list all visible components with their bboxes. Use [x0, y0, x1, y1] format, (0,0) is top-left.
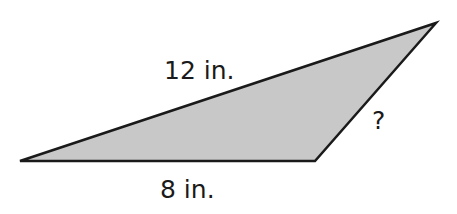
long-side-label: 12 in.: [164, 56, 235, 85]
triangle-diagram: 12 in. 8 in. ?: [0, 0, 457, 214]
base-label: 8 in.: [160, 175, 215, 204]
unknown-side-label: ?: [372, 106, 385, 135]
triangle: [20, 23, 436, 161]
